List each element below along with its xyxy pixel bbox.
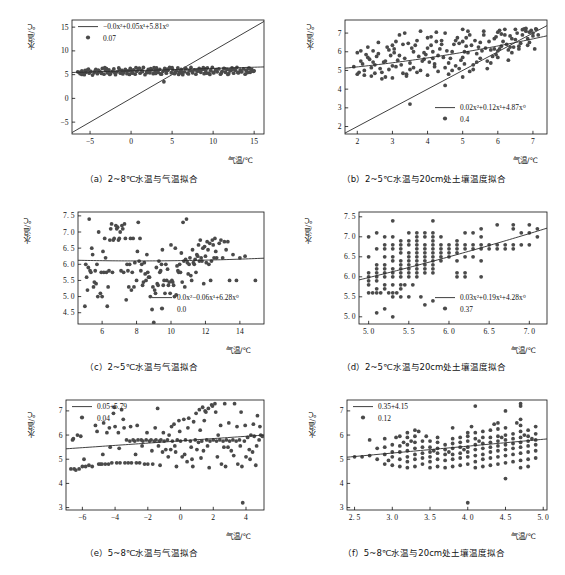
svg-text:0.4: 0.4 xyxy=(460,115,470,124)
panel-d: 水温/℃ 5. 05. 56. 06. 57. 05. 05. 56. 06. … xyxy=(283,192,565,380)
panel-d-caption: （d）2~5℃水温与20cm处土壤温度拟合 xyxy=(283,360,565,372)
svg-text:7: 7 xyxy=(531,137,535,146)
panel-b-x-axis-label: 气温/℃ xyxy=(513,154,538,165)
svg-text:12: 12 xyxy=(202,327,210,336)
svg-text:−5: −5 xyxy=(60,118,68,127)
svg-text:7: 7 xyxy=(338,29,342,38)
svg-text:0.04: 0.04 xyxy=(97,414,110,423)
svg-text:6. 0: 6. 0 xyxy=(443,327,455,336)
svg-text:5: 5 xyxy=(59,455,63,464)
svg-text:2: 2 xyxy=(211,513,215,522)
svg-text:6. 0: 6. 0 xyxy=(344,272,356,281)
svg-text:6. 5: 6. 5 xyxy=(483,327,495,336)
panel-b-plot: 2345672345670.02x²+0.12x¹+4.87x⁰0.4 xyxy=(325,14,553,150)
panel-b-caption: （b）2~5℃水温与20cm处土壤温度拟合 xyxy=(283,172,565,184)
svg-text:0.05+5.79: 0.05+5.79 xyxy=(97,402,127,411)
svg-text:0: 0 xyxy=(179,513,183,522)
svg-text:0.35+4.15: 0.35+4.15 xyxy=(378,402,408,411)
svg-text:7: 7 xyxy=(340,406,344,415)
svg-text:7. 5: 7. 5 xyxy=(63,211,75,220)
svg-text:2: 2 xyxy=(338,122,342,131)
panel-e-y-axis-label: 水温/℃ xyxy=(26,410,37,438)
svg-text:7. 0: 7. 0 xyxy=(63,228,75,237)
svg-text:5: 5 xyxy=(461,137,465,146)
svg-text:5: 5 xyxy=(170,137,174,146)
panel-f-plot: 2. 53. 03. 54. 04. 55. 0345670.35+4.150.… xyxy=(327,394,551,526)
figure-panel-grid: 水温/℃ −5051015−5051015−0.0x²+0.05x¹+5.81x… xyxy=(0,0,565,575)
panel-c-x-axis-label: 气温/℃ xyxy=(226,344,251,355)
panel-e-caption: （e）5~8℃水温与气温拟合 xyxy=(0,546,283,558)
svg-text:5. 0: 5. 0 xyxy=(344,312,356,321)
svg-text:3: 3 xyxy=(59,503,63,512)
panel-d-plot: 5. 05. 56. 06. 57. 05. 05. 56. 06. 57. 0… xyxy=(331,206,551,340)
svg-text:0.37: 0.37 xyxy=(460,305,473,314)
svg-text:8: 8 xyxy=(135,327,139,336)
panel-a-plot: −5051015−5051015−0.0x²+0.05x¹+5.81x⁰0.07 xyxy=(46,14,268,150)
panel-f-caption: （f）5~8℃水温与20cm处土壤温度拟合 xyxy=(283,546,565,558)
svg-text:0: 0 xyxy=(129,137,133,146)
panel-d-y-axis-label: 水温/℃ xyxy=(303,216,314,244)
svg-text:7. 0: 7. 0 xyxy=(344,232,356,241)
svg-text:0.02x²+0.12x¹+4.87x⁰: 0.02x²+0.12x¹+4.87x⁰ xyxy=(460,103,526,112)
panel-e-x-axis-label: 气温/℃ xyxy=(226,530,251,541)
svg-text:0.03x²+0.19x¹+4.28x⁰: 0.03x²+0.19x¹+4.28x⁰ xyxy=(460,293,526,302)
svg-text:6: 6 xyxy=(59,431,63,440)
svg-text:5: 5 xyxy=(340,455,344,464)
svg-text:4: 4 xyxy=(59,479,63,488)
svg-text:5. 0: 5. 0 xyxy=(63,292,75,301)
svg-text:15: 15 xyxy=(61,23,69,32)
svg-text:2. 5: 2. 5 xyxy=(349,513,361,522)
svg-text:5: 5 xyxy=(65,70,69,79)
panel-a-y-axis-label: 水温/℃ xyxy=(26,22,37,50)
panel-e-plot: −6−4−2024345670.05+5.790.04 xyxy=(46,394,268,526)
svg-text:6. 5: 6. 5 xyxy=(344,252,356,261)
svg-text:4. 5: 4. 5 xyxy=(63,308,75,317)
svg-text:5. 5: 5. 5 xyxy=(403,327,415,336)
svg-text:−6: −6 xyxy=(78,513,86,522)
svg-text:3: 3 xyxy=(391,137,395,146)
svg-text:0.12: 0.12 xyxy=(378,414,391,423)
svg-text:4: 4 xyxy=(340,479,344,488)
svg-text:3: 3 xyxy=(340,503,344,512)
svg-text:6: 6 xyxy=(100,327,104,336)
svg-text:−0.0x²+0.05x¹+5.81x⁰: −0.0x²+0.05x¹+5.81x⁰ xyxy=(103,22,169,31)
svg-text:7. 0: 7. 0 xyxy=(524,327,536,336)
svg-text:4: 4 xyxy=(244,513,248,522)
svg-text:4: 4 xyxy=(426,137,430,146)
panel-b: 水温/℃ 2345672345670.02x²+0.12x¹+4.87x⁰0.4… xyxy=(283,0,565,192)
panel-c-y-axis-label: 水温/℃ xyxy=(22,216,33,244)
svg-text:5: 5 xyxy=(338,66,342,75)
svg-text:5. 5: 5. 5 xyxy=(344,292,356,301)
panel-a-caption: （a）2~8℃水温与气温拟合 xyxy=(0,172,283,184)
svg-text:3. 5: 3. 5 xyxy=(424,513,436,522)
svg-text:6: 6 xyxy=(340,431,344,440)
svg-text:7: 7 xyxy=(59,406,63,415)
svg-text:6: 6 xyxy=(338,47,342,56)
svg-text:5. 0: 5. 0 xyxy=(363,327,375,336)
panel-a-x-axis-label: 气温/℃ xyxy=(228,154,253,165)
svg-text:7. 5: 7. 5 xyxy=(344,212,356,221)
svg-text:10: 10 xyxy=(167,327,175,336)
svg-text:4: 4 xyxy=(338,85,342,94)
svg-text:6. 5: 6. 5 xyxy=(63,244,75,253)
panel-f: 水温/℃ 2. 53. 03. 54. 04. 55. 0345670.35+4… xyxy=(283,380,565,575)
svg-text:6: 6 xyxy=(496,137,500,146)
svg-text:−5: −5 xyxy=(86,137,94,146)
panel-c-caption: （c）2~5℃水温与气温拟合 xyxy=(0,360,283,372)
panel-f-x-axis-label: 气温/℃ xyxy=(511,530,536,541)
svg-text:5. 0: 5. 0 xyxy=(538,513,550,522)
svg-text:0.0x²−0.06x¹+6.28x⁰: 0.0x²−0.06x¹+6.28x⁰ xyxy=(177,293,239,302)
svg-text:2: 2 xyxy=(355,137,359,146)
svg-text:0.0: 0.0 xyxy=(177,305,187,314)
svg-text:4. 5: 4. 5 xyxy=(500,513,512,522)
panel-b-y-axis-label: 水温/℃ xyxy=(305,22,316,50)
svg-text:15: 15 xyxy=(250,137,258,146)
svg-text:6. 0: 6. 0 xyxy=(63,260,75,269)
panel-c-plot: 681012144. 55. 05. 56. 06. 57. 07. 50.0x… xyxy=(50,206,268,340)
panel-f-y-axis-label: 水温/℃ xyxy=(307,410,318,438)
panel-c: 水温/℃ 681012144. 55. 05. 56. 06. 57. 07. … xyxy=(0,192,283,380)
svg-text:10: 10 xyxy=(209,137,217,146)
svg-text:14: 14 xyxy=(236,327,244,336)
svg-text:−4: −4 xyxy=(111,513,119,522)
svg-text:0.07: 0.07 xyxy=(103,34,116,43)
